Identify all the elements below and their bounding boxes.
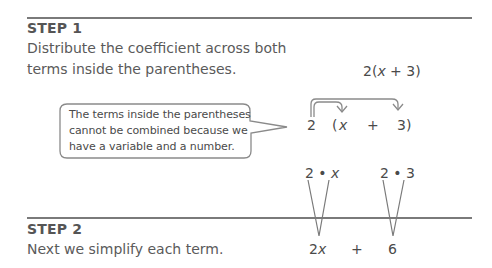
product-first-coef: 2 •	[305, 165, 331, 181]
distribution-arrows-icon	[311, 99, 403, 117]
product-first: 2 • x	[305, 164, 339, 182]
expression-rest: + 3)	[386, 63, 421, 79]
step2-description: Next we simplify each term.	[27, 239, 223, 260]
expression-coefficient: 2(	[363, 63, 377, 79]
distribution-open-paren: (	[332, 116, 337, 134]
distribution-plus: +	[367, 116, 379, 134]
product-first-var: x	[331, 165, 339, 181]
callout-line1: The terms inside the parentheses	[69, 107, 251, 123]
original-expression: 2(x + 3)	[363, 62, 421, 80]
distribution-variable: x	[339, 116, 347, 134]
result-plus: +	[351, 240, 363, 258]
product-to-result-lines	[308, 180, 404, 236]
step2-label: STEP 2	[27, 221, 82, 237]
step1-divider	[27, 17, 472, 19]
step2-divider	[27, 217, 472, 219]
callout-line2: cannot be combined because we	[69, 123, 248, 139]
distribution-coefficient: 2	[307, 116, 316, 134]
result-first: 2x	[309, 240, 326, 258]
step1-label: STEP 1	[27, 20, 82, 36]
product-second: 2 • 3	[380, 164, 415, 182]
step1-description-line1: Distribute the coefficient across both	[27, 38, 286, 59]
result-first-var: x	[318, 241, 326, 257]
result-first-coef: 2	[309, 241, 318, 257]
expression-variable: x	[377, 63, 385, 79]
distribution-constant: 3)	[397, 116, 411, 134]
callout-line3: have a variable and a number.	[69, 139, 235, 155]
result-second: 6	[388, 240, 397, 258]
step1-description-line2: terms inside the parentheses.	[27, 59, 236, 80]
